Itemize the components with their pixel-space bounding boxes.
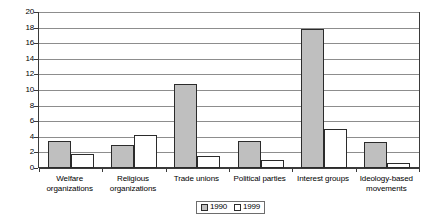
x-axis-label-line: organizations (38, 184, 101, 194)
y-tick-mark (34, 28, 38, 29)
y-tick-mark (34, 121, 38, 122)
bar-1990-2 (174, 84, 197, 168)
bar-1999-1 (134, 135, 157, 168)
bar-1999-4 (324, 129, 347, 168)
y-tick-label: 4 (2, 133, 34, 141)
y-tick-mark (34, 12, 38, 13)
x-axis-label-line: Ideology-based (355, 174, 418, 184)
x-axis-label-line: movements (355, 184, 418, 194)
x-axis-label: Welfareorganizations (38, 174, 101, 194)
y-tick-label: 2 (2, 148, 34, 156)
x-axis-label-line: Trade unions (165, 174, 228, 184)
bar-group (39, 13, 102, 168)
bar-chart: 02468101214161820 WelfareorganizationsRe… (0, 0, 433, 223)
bar-1990-4 (301, 29, 324, 169)
legend-swatch-1999 (234, 204, 241, 211)
y-tick-label: 10 (2, 86, 34, 94)
x-tick-mark (166, 168, 167, 172)
legend-label-1990: 1990 (210, 203, 227, 211)
x-axis-label-line: Interest groups (291, 174, 354, 184)
x-axis-label: Interest groups (291, 174, 354, 184)
bar-1999-0 (71, 154, 94, 168)
y-tick-mark (34, 43, 38, 44)
y-tick-label: 0 (2, 164, 34, 172)
y-tick-mark (34, 74, 38, 75)
chart-legend: 1990 1999 (196, 201, 265, 214)
bar-1990-5 (364, 142, 387, 168)
bars-layer (39, 13, 419, 168)
x-axis-label: Political parties (228, 174, 291, 184)
y-tick-label: 6 (2, 117, 34, 125)
x-axis-label-line: Religious (101, 174, 164, 184)
y-tick-mark (34, 106, 38, 107)
x-axis-label: Ideology-basedmovements (355, 174, 418, 194)
y-tick-mark (34, 59, 38, 60)
bar-group (102, 13, 165, 168)
x-axis-labels: WelfareorganizationsReligiousorganizatio… (38, 174, 420, 200)
x-axis-label: Trade unions (165, 174, 228, 184)
y-tick-mark (34, 168, 38, 169)
bar-1999-5 (387, 163, 410, 168)
legend-entry-1990: 1990 (201, 203, 227, 211)
x-tick-mark (419, 168, 420, 172)
bar-1990-0 (48, 141, 71, 168)
y-tick-mark (34, 90, 38, 91)
y-tick-mark (34, 152, 38, 153)
bar-group (292, 13, 355, 168)
x-tick-mark (39, 168, 40, 172)
bar-group (356, 13, 419, 168)
bar-1999-2 (197, 156, 220, 168)
y-tick-label: 18 (2, 24, 34, 32)
bar-group (229, 13, 292, 168)
y-axis: 02468101214161820 (0, 12, 34, 168)
x-tick-mark (102, 168, 103, 172)
legend-label-1999: 1999 (243, 203, 260, 211)
y-tick-label: 20 (2, 8, 34, 16)
legend-entry-1999: 1999 (234, 203, 260, 211)
x-axis-label-line: Welfare (38, 174, 101, 184)
bar-1990-3 (238, 141, 261, 168)
y-tick-label: 14 (2, 55, 34, 63)
y-tick-label: 12 (2, 70, 34, 78)
y-tick-label: 8 (2, 102, 34, 110)
legend-swatch-1990 (201, 204, 208, 211)
x-axis-label-line: organizations (101, 184, 164, 194)
bar-1999-3 (261, 160, 284, 168)
x-axis-label-line: Political parties (228, 174, 291, 184)
bar-1990-1 (111, 145, 134, 168)
bar-group (166, 13, 229, 168)
x-tick-mark (229, 168, 230, 172)
y-tick-label: 16 (2, 39, 34, 47)
x-axis-label: Religiousorganizations (101, 174, 164, 194)
x-tick-mark (356, 168, 357, 172)
x-tick-mark (292, 168, 293, 172)
y-tick-mark (34, 137, 38, 138)
